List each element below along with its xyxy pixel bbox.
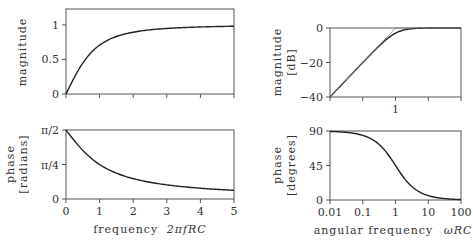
x-axis-label-angular-frequency: angular frequency ωRC	[314, 224, 473, 237]
data-curve	[66, 26, 234, 94]
x-tick-label: 0.01	[318, 206, 343, 219]
x-tick-label: 0	[63, 205, 70, 218]
y-tick-label: π/4	[41, 159, 59, 172]
plot-frame	[66, 9, 234, 94]
y-axis-label-phase: phase	[4, 145, 17, 183]
data-curve	[330, 131, 461, 199]
y-tick-label: −20	[300, 57, 323, 70]
y-tick-label: 0	[52, 88, 59, 101]
plot-frame	[330, 28, 461, 97]
y-axis-label-degrees: [degrees]	[285, 134, 298, 196]
x-axis-label-math: 2πfRC	[166, 223, 207, 236]
x-tick-label: 4	[197, 205, 204, 218]
x-tick-label: 1	[392, 103, 399, 116]
x-tick-label: 1	[96, 205, 103, 218]
plot-bode-phase: 0.010.111010004590	[309, 125, 472, 219]
figure: 00.51 0123450π/4π/2 1−40−200 0.010.11101…	[0, 0, 473, 248]
y-axis-label-magnitude-db: magnitude	[271, 28, 284, 97]
y-axis-label-radians: [radians]	[17, 134, 30, 193]
y-axis-label-db: [dB]	[285, 48, 298, 76]
x-axis-label-frequency: frequency 2πfRC	[93, 223, 206, 236]
x-tick-label: 10	[421, 206, 435, 219]
y-tick-label: 0	[316, 22, 323, 35]
x-tick-label: 3	[163, 205, 170, 218]
plot-linear-magnitude: 00.51	[42, 9, 235, 101]
y-tick-label: 90	[309, 125, 323, 138]
data-curve	[330, 28, 461, 97]
x-tick-label: 5	[231, 205, 238, 218]
x-axis-label-math: ωRC	[444, 224, 473, 237]
y-tick-label: −40	[300, 91, 323, 104]
x-tick-label: 0.1	[354, 206, 372, 219]
y-axis-label-magnitude: magnitude	[16, 18, 29, 87]
y-tick-label: 0	[316, 194, 323, 207]
x-tick-label: 100	[451, 206, 472, 219]
y-tick-label: 0	[52, 193, 59, 206]
x-tick-label: 1	[392, 206, 399, 219]
plot-linear-phase: 0123450π/4π/2	[41, 124, 237, 218]
y-tick-label: 1	[52, 19, 59, 32]
plot-bode-magnitude: 1−40−200	[300, 22, 461, 116]
x-axis-label-prefix: frequency	[93, 223, 158, 236]
y-axis-label-phase-deg: phase	[271, 146, 284, 184]
y-tick-label: 0.5	[42, 53, 60, 66]
x-tick-label: 2	[130, 205, 137, 218]
asymptote-line	[330, 28, 461, 97]
data-curve	[66, 130, 234, 190]
x-axis-label-prefix: angular frequency	[314, 224, 434, 237]
y-tick-label: π/2	[41, 124, 59, 137]
y-tick-label: 45	[309, 160, 323, 173]
